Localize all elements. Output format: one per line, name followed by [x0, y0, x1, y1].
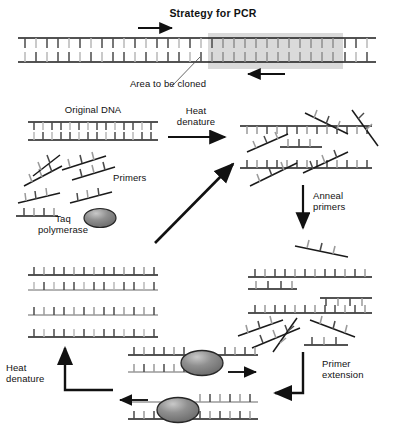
original-dna-label: Original DNA	[33, 104, 153, 115]
denature-free-primers	[247, 110, 378, 186]
primer	[273, 318, 297, 352]
primer	[70, 188, 112, 203]
primer	[352, 110, 378, 146]
denatured-strands-group	[240, 110, 378, 186]
annealed-complexes-group	[238, 240, 372, 352]
primers-label: Primers	[113, 172, 173, 183]
taq-polymerase-label: Taq polymerase	[30, 213, 96, 235]
primer	[280, 139, 322, 147]
leftover-primers-anneal	[238, 316, 355, 352]
amplified-products-group	[28, 267, 158, 337]
primer	[247, 132, 288, 152]
taq-polymerase-upper	[181, 351, 223, 376]
anneal-primers-label: Anneal primers	[313, 190, 375, 212]
stray-primer-top	[295, 240, 348, 257]
primer	[303, 150, 348, 173]
extension-complex-upper	[128, 347, 258, 376]
primer	[62, 152, 106, 170]
primer-extension-label: Primer extension	[322, 358, 392, 380]
primer	[238, 316, 283, 336]
primer	[33, 155, 60, 176]
primer-extension-arrow	[275, 352, 303, 393]
free-primer-pool	[16, 152, 115, 216]
primer	[18, 188, 60, 203]
original-dna-duplex	[28, 122, 158, 140]
denatured-lower-rungs	[247, 160, 367, 168]
denatured-upper-rungs	[247, 126, 367, 134]
heat-denature-label-1: Heat denature	[164, 105, 228, 127]
heat-denature-arrow-2	[65, 348, 113, 390]
primer	[310, 316, 355, 337]
primer	[304, 337, 348, 345]
pcr-strategy-figure: Strategy for PCR Area to be cloned Origi…	[0, 0, 393, 432]
heat-denature-label-2: Heat denature	[6, 362, 68, 384]
annealed-lower-rungs	[255, 305, 365, 313]
area-to-be-cloned-label: Area to be cloned	[108, 78, 228, 89]
extension-complex-lower	[120, 394, 258, 423]
original-dna-rungs	[34, 122, 151, 140]
taq-polymerase-lower	[157, 398, 199, 423]
page-title: Strategy for PCR	[153, 8, 273, 19]
annealed-upper-rungs	[255, 269, 365, 277]
